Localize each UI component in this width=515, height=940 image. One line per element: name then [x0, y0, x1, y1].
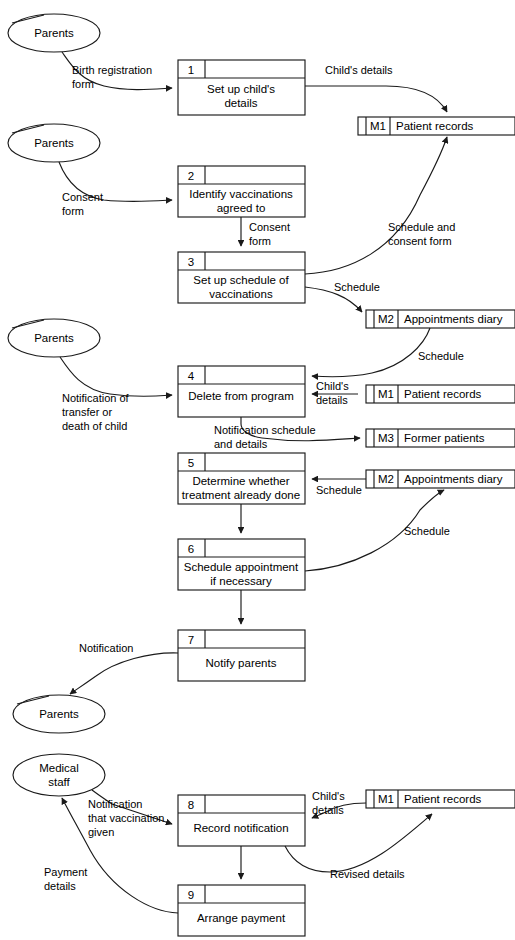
process-number: 4: [188, 370, 195, 382]
flow-schedule-m2-to-p4: Schedule: [312, 328, 464, 377]
process-6: 6 Schedule appointment if necessary: [178, 539, 305, 590]
datastore-name: Appointments diary: [404, 473, 503, 485]
process-name-line2: treatment already done: [182, 489, 300, 501]
flow-schedule-p6-to-m2: Schedule: [305, 490, 450, 571]
datastore-name: Patient records: [404, 793, 482, 805]
entity-parents-4: Parents: [13, 695, 105, 733]
flow-label-line1: Birth registration: [72, 64, 152, 76]
process-name-line1: Notify parents: [206, 657, 277, 669]
flow-consent-form-1: Consent form: [59, 162, 172, 217]
process-name-line2: vaccinations: [209, 288, 273, 300]
flow-label-line3: death of child: [62, 420, 127, 432]
entity-parents-3: Parents: [8, 319, 100, 357]
flow-label-line2: and details: [214, 438, 268, 450]
flow-label-line1: Notification: [88, 798, 142, 810]
flow-label-line1: Child's: [316, 380, 349, 392]
process-2: 2 Identify vaccinations agreed to: [178, 166, 305, 217]
process-8: 8 Record notification: [178, 795, 305, 846]
flow-label-line1: Consent: [249, 221, 290, 233]
process-number: 3: [188, 256, 194, 268]
process-name-line1: Arrange payment: [197, 912, 286, 924]
flow-label: Schedule: [418, 350, 464, 362]
flow-label-line3: given: [88, 826, 114, 838]
flow-notification-transfer-death: Notification of transfer or death of chi…: [60, 357, 172, 432]
datastore-id: M2: [378, 313, 394, 325]
flow-label-line2: details: [44, 880, 76, 892]
entity-label: Parents: [34, 332, 74, 344]
datastore-name: Former patients: [404, 432, 485, 444]
flow-childs-details-m1-to-p8: Child's details: [312, 790, 366, 818]
process-number: 9: [188, 889, 194, 901]
datastore-name: Patient records: [404, 388, 482, 400]
datastore-id: M1: [370, 120, 386, 132]
flow-label: Child's details: [325, 64, 393, 76]
flow-label-line2: form: [62, 205, 84, 217]
flow-label-line2: form: [249, 235, 271, 247]
process-number: 5: [188, 457, 194, 469]
datastore-id: M2: [378, 473, 394, 485]
datastore-m1b-patient-records: M1 Patient records: [366, 385, 515, 403]
flow-label-line1: Payment: [44, 866, 87, 878]
datastore-m2b-appointments-diary: M2 Appointments diary: [366, 470, 515, 488]
flow-label-line1: Schedule and: [388, 221, 455, 233]
datastore-m2-appointments-diary: M2 Appointments diary: [366, 310, 515, 328]
process-4: 4 Delete from program: [178, 366, 305, 417]
flow-notification-vaccination-given: Notification that vaccination given: [88, 790, 172, 838]
flow-label-line2: details: [316, 394, 348, 406]
flow-notification-to-parents: Notification: [70, 642, 178, 694]
flow-consent-form-2: Consent form: [241, 217, 290, 247]
process-name-line1: Set up child's: [207, 83, 275, 95]
datastore-m1-patient-records: M1 Patient records: [358, 117, 515, 135]
flow-label: Schedule: [404, 525, 450, 537]
flow-schedule-and-consent-form: Schedule and consent form: [305, 137, 455, 274]
entity-label-line2: staff: [48, 776, 70, 788]
process-name-line2: details: [224, 97, 257, 109]
flow-label-line2: consent form: [388, 235, 452, 247]
flow-label-line2: that vaccination: [88, 812, 164, 824]
entity-label-line1: Medical: [39, 762, 79, 774]
process-number: 8: [188, 799, 194, 811]
process-1: 1 Set up child's details: [178, 60, 305, 115]
flow-label-line2: form: [72, 78, 94, 90]
process-number: 2: [188, 170, 194, 182]
dfd-diagram: Parents 1 Set up child's details Birth r…: [0, 0, 515, 940]
flow-label: Revised details: [330, 868, 405, 880]
flow-label: Notification: [79, 642, 133, 654]
datastore-m1c-patient-records: M1 Patient records: [366, 790, 515, 808]
flow-label: Schedule: [316, 484, 362, 496]
entity-label: Parents: [39, 708, 79, 720]
entity-label: Parents: [34, 27, 74, 39]
datastore-id: M3: [378, 432, 394, 444]
flow-revised-details: Revised details: [285, 814, 432, 880]
entity-parents-1: Parents: [8, 14, 100, 52]
datastore-name: Appointments diary: [404, 313, 503, 325]
process-5: 5 Determine whether treatment already do…: [178, 453, 305, 504]
process-number: 1: [188, 64, 194, 76]
flow-label: Schedule: [334, 281, 380, 293]
flow-birth-registration-form: Birth registration form: [62, 52, 172, 90]
process-number: 6: [188, 543, 194, 555]
dfd-canvas: Parents 1 Set up child's details Birth r…: [0, 0, 515, 940]
flow-label-line2: details: [312, 804, 344, 816]
process-9: 9 Arrange payment: [178, 885, 305, 936]
process-number: 7: [188, 634, 194, 646]
flow-label-line1: Consent: [62, 191, 103, 203]
datastore-m3-former-patients: M3 Former patients: [366, 429, 515, 447]
flow-label-line1: Notification of: [62, 392, 130, 404]
flow-childs-details-m1-to-p4: Child's details: [312, 380, 358, 406]
process-name-line1: Identify vaccinations: [189, 188, 293, 200]
flow-schedule-m2-to-p5: Schedule: [312, 479, 366, 496]
process-name-line1: Schedule appointment: [184, 561, 299, 573]
entity-parents-2: Parents: [8, 124, 100, 162]
datastore-id: M1: [378, 388, 394, 400]
process-name-line1: Determine whether: [192, 475, 289, 487]
flow-label-line2: transfer or: [62, 406, 112, 418]
process-name-line1: Set up schedule of: [193, 274, 289, 286]
flow-notification-schedule-details: Notification schedule and details: [214, 417, 360, 450]
datastore-id: M1: [378, 793, 394, 805]
process-name-line1: Delete from program: [188, 390, 293, 402]
datastore-name: Patient records: [396, 120, 474, 132]
entity-label: Parents: [34, 137, 74, 149]
flow-label-line1: Child's: [312, 790, 345, 802]
flow-childs-details-to-m1: Child's details: [305, 64, 447, 112]
